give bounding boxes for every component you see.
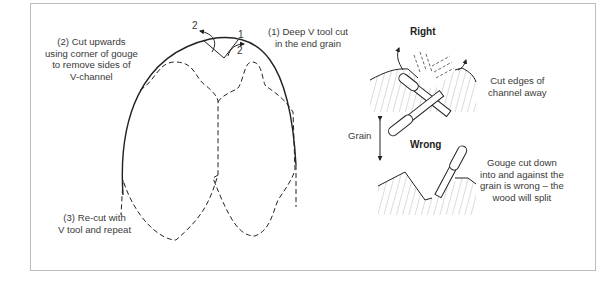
dashed-right-lobe	[213, 62, 295, 236]
wrong-caption-line4: wood will split	[480, 192, 564, 204]
label-step1: (1) Deep V tool cut in the end grain	[268, 26, 348, 49]
wrong-caption: Gouge cut down into and against the grai…	[480, 157, 564, 203]
v-cut-notch	[203, 40, 238, 58]
step-number-2-right: 2	[237, 45, 243, 56]
right-caption: Cut edges of channel away	[488, 75, 547, 98]
right-caption-line2: channel away	[488, 87, 547, 99]
label-step2-line4: V-channel	[45, 71, 138, 83]
wrong-caption-line3: grain is wrong – the	[480, 180, 564, 192]
label-step2: (2) Cut upwards using corner of gouge to…	[45, 36, 138, 82]
step-number-2-left: 2	[192, 20, 198, 31]
right-title: Right	[410, 26, 436, 38]
label-step3-line2: V tool and repeat	[58, 224, 131, 236]
wrong-caption-line2: into and against the	[480, 169, 564, 181]
dashed-left-lobe	[121, 62, 218, 240]
right-caption-line1: Cut edges of	[488, 75, 547, 87]
label-step3-line1: (3) Re-cut with	[58, 212, 131, 224]
label-step2-line1: (2) Cut upwards	[45, 36, 138, 48]
label-step2-line3: to remove sides of	[45, 59, 138, 71]
label-step2-line2: using corner of gouge	[45, 48, 138, 60]
label-step1-line2: in the end grain	[268, 38, 348, 50]
step-number-1: 1	[238, 29, 244, 40]
grain-label: Grain	[348, 130, 371, 142]
end-grain-outline	[122, 37, 296, 195]
wrong-caption-line1: Gouge cut down	[480, 157, 564, 169]
right-technique-drawing	[370, 48, 476, 138]
label-step1-line1: (1) Deep V tool cut	[268, 26, 348, 38]
label-step3: (3) Re-cut with V tool and repeat	[58, 212, 131, 235]
wrong-technique-drawing	[378, 144, 476, 215]
wrong-title: Wrong	[410, 139, 441, 151]
